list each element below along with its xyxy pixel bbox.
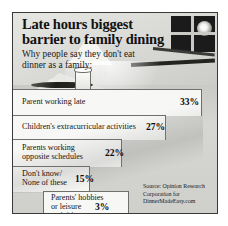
night-window-icon	[171, 16, 215, 52]
headline: Late hours biggest barrier to family din…	[22, 17, 172, 47]
bar-value-1: 33%	[180, 96, 199, 107]
infographic-panel: Late hours biggest barrier to family din…	[12, 12, 218, 214]
bar-value-5: 3%	[95, 201, 109, 212]
bar-value-2: 27%	[146, 121, 165, 132]
bar-label-1: Parent working late	[22, 97, 85, 106]
window-mullion-horizontal	[171, 32, 215, 35]
bar-label-2: Children's extracurricular activities	[22, 122, 136, 131]
source-credit: Source: Opinion Research Corporation for…	[143, 183, 213, 206]
bar-label-3: Parents workingopposite schedules	[22, 143, 102, 161]
bar-value-3: 22%	[105, 147, 124, 158]
subhead: Why people say they don't eat dinner as …	[22, 49, 152, 71]
bar-value-4: 15%	[75, 173, 94, 184]
